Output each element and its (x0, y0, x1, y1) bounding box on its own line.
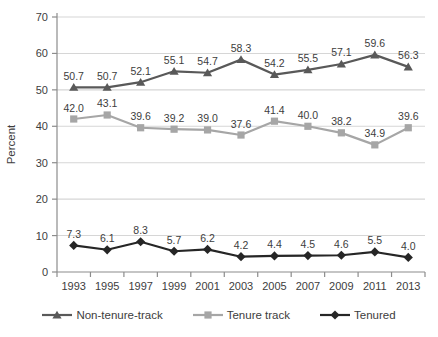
data-label-tenure-track: 39.0 (197, 112, 218, 124)
diamond-marker-icon (370, 247, 379, 256)
diamond-marker-icon (136, 237, 145, 246)
data-label-tenure-track: 41.4 (264, 104, 285, 116)
data-label-tenure-track: 38.2 (331, 115, 352, 127)
y-tick-label: 10 (36, 230, 48, 242)
legend-label-tenure-track: Tenure track (227, 309, 290, 321)
data-label-tenured: 8.3 (133, 224, 148, 236)
square-marker-icon (405, 124, 412, 131)
legend-label-non-tenure-track: Non-tenure-track (76, 309, 162, 321)
diamond-marker-icon (270, 251, 279, 260)
x-tick-label: 2013 (396, 280, 420, 292)
data-label-non-tenure-track: 56.3 (398, 49, 419, 61)
y-tick-label: 50 (36, 84, 48, 96)
x-tick-label: 1993 (61, 280, 85, 292)
square-marker-icon (204, 311, 211, 318)
y-tick-label: 0 (42, 266, 48, 278)
data-label-non-tenure-track: 57.1 (331, 46, 352, 58)
y-tick-label: 30 (36, 157, 48, 169)
legend-key-triangle-icon (42, 309, 72, 321)
diamond-marker-icon (330, 310, 339, 319)
y-axis-title: Percent (5, 124, 17, 164)
data-label-tenured: 4.5 (301, 238, 316, 250)
data-label-tenured: 4.2 (234, 239, 249, 251)
diamond-marker-icon (236, 252, 245, 261)
data-label-tenure-track: 43.1 (97, 97, 118, 109)
data-label-tenured: 6.2 (200, 232, 215, 244)
x-tick-label: 1997 (128, 280, 152, 292)
square-marker-icon (70, 115, 77, 122)
diamond-marker-icon (69, 241, 78, 250)
data-label-tenure-track: 37.6 (231, 118, 252, 130)
data-label-tenured: 4.6 (334, 238, 349, 250)
data-label-tenure-track: 39.2 (164, 112, 185, 124)
diamond-marker-icon (203, 245, 212, 254)
data-label-tenure-track: 42.0 (64, 102, 85, 114)
x-tick-label: 2007 (296, 280, 320, 292)
diamond-marker-icon (169, 247, 178, 256)
x-tick-label: 1995 (95, 280, 119, 292)
data-label-non-tenure-track: 54.7 (197, 55, 218, 67)
square-marker-icon (271, 118, 278, 125)
square-marker-icon (338, 129, 345, 136)
data-label-non-tenure-track: 55.1 (164, 54, 185, 66)
chart-legend: Non-tenure-trackTenure trackTenured (0, 302, 438, 328)
legend-key-diamond-icon (320, 309, 350, 321)
x-tick-label: 2009 (329, 280, 353, 292)
data-label-tenured: 7.3 (66, 228, 81, 240)
square-marker-icon (371, 141, 378, 148)
x-tick-label: 2003 (229, 280, 253, 292)
legend-item-tenured: Tenured (320, 309, 396, 321)
data-label-non-tenure-track: 55.5 (298, 52, 319, 64)
data-label-tenured: 6.1 (100, 232, 115, 244)
data-label-tenured: 4.0 (401, 240, 416, 252)
data-label-tenured: 5.5 (368, 234, 383, 246)
chart-canvas: 0102030405060701993199519971999200120032… (0, 0, 438, 300)
diamond-marker-icon (103, 245, 112, 254)
square-marker-icon (237, 131, 244, 138)
legend-item-non-tenure-track: Non-tenure-track (42, 309, 162, 321)
x-tick-label: 2001 (195, 280, 219, 292)
triangle-marker-icon (370, 51, 379, 59)
data-label-tenure-track: 40.0 (298, 109, 319, 121)
legend-label-tenured: Tenured (354, 309, 396, 321)
x-tick-label: 2005 (262, 280, 286, 292)
square-marker-icon (204, 126, 211, 133)
data-label-tenure-track: 39.6 (130, 110, 151, 122)
y-tick-label: 60 (36, 47, 48, 59)
data-label-tenure-track: 34.9 (365, 127, 386, 139)
square-marker-icon (170, 126, 177, 133)
diamond-marker-icon (404, 253, 413, 262)
square-marker-icon (104, 111, 111, 118)
data-label-tenure-track: 39.6 (398, 110, 419, 122)
data-label-non-tenure-track: 58.3 (231, 42, 252, 54)
y-tick-label: 20 (36, 193, 48, 205)
x-tick-label: 2011 (363, 280, 387, 292)
x-tick-label: 1999 (162, 280, 186, 292)
diamond-marker-icon (337, 251, 346, 260)
data-label-non-tenure-track: 50.7 (97, 70, 118, 82)
y-tick-label: 70 (36, 11, 48, 23)
legend-item-tenure-track: Tenure track (193, 309, 290, 321)
y-tick-label: 40 (36, 120, 48, 132)
line-chart-figure: 0102030405060701993199519971999200120032… (0, 0, 438, 337)
data-label-tenured: 4.4 (267, 238, 282, 250)
data-label-non-tenure-track: 54.2 (264, 57, 285, 69)
triangle-marker-icon (236, 55, 245, 63)
data-label-tenured: 5.7 (167, 234, 182, 246)
data-label-non-tenure-track: 59.6 (365, 37, 386, 49)
data-label-non-tenure-track: 52.1 (130, 65, 151, 77)
diamond-marker-icon (303, 251, 312, 260)
square-marker-icon (137, 124, 144, 131)
square-marker-icon (304, 123, 311, 130)
legend-key-square-icon (193, 309, 223, 321)
data-label-non-tenure-track: 50.7 (64, 70, 85, 82)
